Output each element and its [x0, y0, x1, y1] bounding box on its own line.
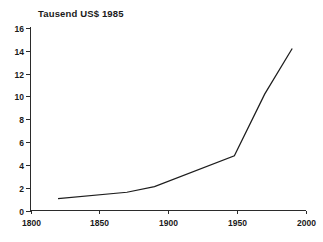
- x-tick-label: 1850: [90, 218, 109, 228]
- x-tick-label: 1900: [159, 218, 178, 228]
- line-chart-plot: 0246810121416 18001850190019502000: [0, 0, 323, 242]
- x-axis-tick-labels: 18001850190019502000: [22, 218, 316, 228]
- y-axis-ticks: [26, 29, 31, 212]
- y-tick-label: 14: [15, 47, 25, 57]
- y-tick-label: 10: [15, 92, 25, 102]
- y-tick-label: 2: [19, 184, 24, 194]
- x-tick-label: 1800: [22, 218, 41, 228]
- x-tick-label: 1950: [228, 218, 247, 228]
- data-series-line: [58, 49, 292, 199]
- y-tick-label: 12: [15, 70, 25, 80]
- x-tick-label: 2000: [297, 218, 316, 228]
- chart-container: Tausend US$ 1985 0246810121416 180018501…: [0, 0, 323, 242]
- y-tick-label: 4: [19, 161, 24, 171]
- y-tick-label: 0: [19, 207, 24, 217]
- y-tick-label: 6: [19, 138, 24, 148]
- y-axis-tick-labels: 0246810121416: [15, 24, 25, 217]
- x-axis-ticks: [32, 211, 307, 215]
- y-tick-label: 8: [19, 115, 24, 125]
- y-tick-label: 16: [15, 24, 25, 34]
